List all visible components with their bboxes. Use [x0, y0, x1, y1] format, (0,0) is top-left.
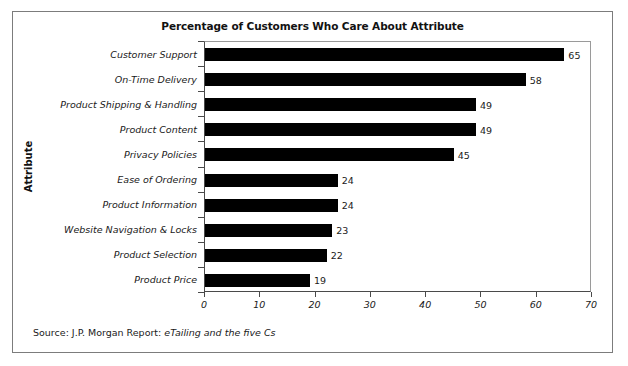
x-axis-tick [370, 292, 371, 297]
x-axis-tick-label: 60 [530, 299, 542, 310]
bar-row: 65 [205, 48, 590, 61]
bars-layer: 65584949452424232219 [205, 42, 590, 291]
x-axis-tick [204, 292, 205, 297]
x-axis-tick-label: 70 [585, 299, 597, 310]
bar-value-label: 65 [564, 49, 580, 60]
x-axis-tick [315, 292, 316, 297]
bar-row: 49 [205, 98, 590, 111]
bar-value-label: 24 [338, 175, 354, 186]
source-prefix: Source: J.P. Morgan Report: [33, 327, 164, 338]
source-title: eTailing and the five Cs [164, 327, 275, 338]
bar-row: 24 [205, 199, 590, 212]
x-axis-tick-label: 0 [201, 299, 207, 310]
bar-row: 49 [205, 123, 590, 136]
bar [205, 48, 564, 61]
bar-value-label: 19 [310, 275, 326, 286]
bar-value-label: 22 [327, 250, 343, 261]
bar-value-label: 58 [526, 74, 542, 85]
bar [205, 224, 332, 237]
x-axis-tick [425, 292, 426, 297]
x-axis-tick [480, 292, 481, 297]
bar-row: 45 [205, 148, 590, 161]
x-axis-tick [591, 292, 592, 297]
bar-value-label: 49 [476, 99, 492, 110]
plot-area: 65584949452424232219 [204, 41, 591, 292]
x-axis-tick-label: 40 [419, 299, 431, 310]
x-axis-tick-label: 50 [474, 299, 486, 310]
x-axis-tick [536, 292, 537, 297]
bar [205, 148, 454, 161]
chart-title: Percentage of Customers Who Care About A… [13, 20, 612, 32]
bar-value-label: 49 [476, 124, 492, 135]
bar [205, 174, 338, 187]
bar-value-label: 24 [338, 200, 354, 211]
x-axis-tick-label: 30 [364, 299, 376, 310]
bar-row: 19 [205, 274, 590, 287]
bar-row: 58 [205, 73, 590, 86]
chart-figure: Percentage of Customers Who Care About A… [12, 11, 613, 353]
bar [205, 274, 310, 287]
x-axis-tick-label: 10 [253, 299, 265, 310]
x-axis-tick [259, 292, 260, 297]
bar [205, 123, 476, 136]
x-axis-ticks-and-labels: 010203040506070 [204, 292, 592, 322]
bar-row: 23 [205, 224, 590, 237]
y-axis-ticks [13, 41, 204, 293]
bar [205, 199, 338, 212]
bar-row: 22 [205, 249, 590, 262]
source-note: Source: J.P. Morgan Report: eTailing and… [33, 327, 275, 338]
bar-value-label: 23 [332, 225, 348, 236]
bar [205, 73, 526, 86]
bar [205, 98, 476, 111]
bar-value-label: 45 [454, 149, 470, 160]
bar [205, 249, 327, 262]
bar-row: 24 [205, 174, 590, 187]
x-axis-tick-label: 20 [309, 299, 321, 310]
